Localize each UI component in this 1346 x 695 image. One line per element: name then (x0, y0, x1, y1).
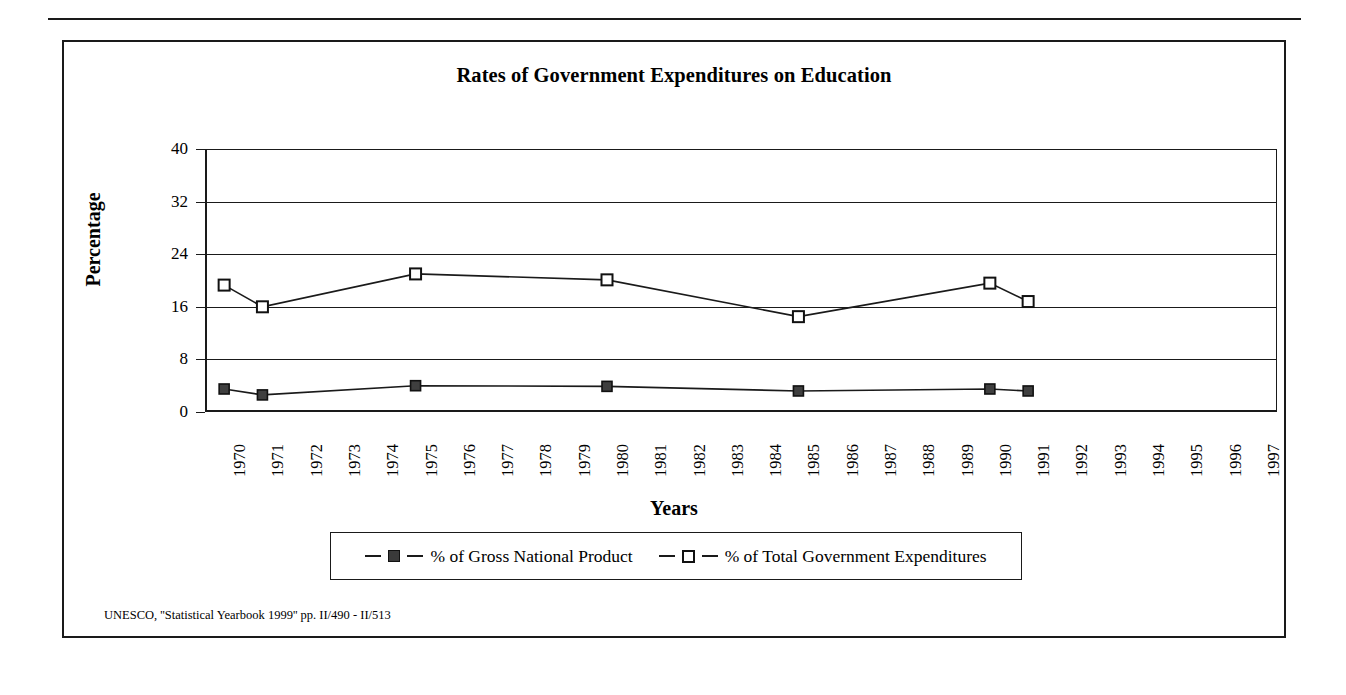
y-tick-label: 16 (171, 297, 188, 317)
x-tick-label: 1980 (613, 444, 633, 477)
filled-square-marker (1023, 386, 1033, 396)
hollow-square-marker (793, 311, 804, 322)
x-tick-label: 1982 (690, 444, 710, 477)
x-tick-label: 1989 (958, 444, 978, 477)
legend-line-right (702, 555, 718, 557)
x-tick-label: 1987 (881, 444, 901, 477)
filled-square-marker (257, 390, 267, 400)
x-tick-label: 1977 (498, 444, 518, 477)
legend-entry-total-gov: % of Total Government Expenditures (659, 546, 987, 567)
y-tick-label: 32 (171, 192, 188, 212)
y-tick-label: 0 (180, 402, 189, 422)
y-axis-title: Percentage (82, 192, 105, 286)
filled-square-icon (388, 550, 400, 562)
x-tick-label: 1993 (1111, 444, 1131, 477)
x-tick-label: 1983 (728, 444, 748, 477)
hollow-square-marker (219, 280, 230, 291)
x-axis-title: Years (64, 497, 1284, 520)
y-tick (196, 254, 205, 255)
chart-title: Rates of Government Expenditures on Educ… (64, 64, 1284, 87)
hollow-square-marker (984, 278, 995, 289)
legend-line-left (659, 555, 675, 557)
legend-line-right (407, 555, 423, 557)
filled-square-marker (985, 384, 995, 394)
filled-square-marker (602, 381, 612, 391)
legend-entry-gnp: % of Gross National Product (365, 546, 632, 567)
page-top-rule (48, 18, 1301, 20)
y-tick (196, 202, 205, 203)
x-axis-tick-labels: 1970197119721973197419751976197719781979… (205, 415, 1277, 487)
y-tick (196, 149, 205, 150)
x-tick-label: 1986 (843, 444, 863, 477)
x-tick-label: 1971 (268, 444, 288, 477)
x-tick-label: 1996 (1226, 444, 1246, 477)
x-tick-label: 1984 (766, 444, 786, 477)
x-tick-label: 1975 (422, 444, 442, 477)
x-tick-label: 1985 (804, 444, 824, 477)
series-line (224, 386, 1028, 395)
x-tick-label: 1988 (919, 444, 939, 477)
hollow-square-icon (682, 550, 695, 563)
y-tick (196, 307, 205, 308)
y-tick-label: 24 (171, 244, 188, 264)
x-tick-label: 1979 (575, 444, 595, 477)
plot-area (205, 149, 1277, 412)
y-tick-label: 40 (171, 139, 188, 159)
chart-legend: % of Gross National Product % of Total G… (330, 532, 1022, 580)
y-tick-label: 8 (180, 349, 189, 369)
hollow-square-marker (410, 268, 421, 279)
filled-square-marker (793, 386, 803, 396)
x-tick-label: 1992 (1072, 444, 1092, 477)
series-line (224, 274, 1028, 317)
filled-square-marker (219, 384, 229, 394)
hollow-square-marker (602, 274, 613, 285)
hollow-square-marker (1023, 296, 1034, 307)
data-series-layer (205, 149, 1277, 412)
x-tick-label: 1978 (536, 444, 556, 477)
y-tick (196, 412, 205, 413)
legend-line-left (365, 555, 381, 557)
x-tick-label: 1997 (1264, 444, 1284, 477)
x-tick-label: 1974 (383, 444, 403, 477)
hollow-square-marker (257, 301, 268, 312)
x-tick-label: 1973 (345, 444, 365, 477)
x-tick-label: 1995 (1187, 444, 1207, 477)
x-tick-label: 1976 (460, 444, 480, 477)
chart-frame: Rates of Government Expenditures on Educ… (62, 40, 1286, 638)
x-tick-label: 1981 (651, 444, 671, 477)
x-tick-label: 1970 (230, 444, 250, 477)
x-tick-label: 1990 (996, 444, 1016, 477)
y-axis-tick-labels: 0816243240 (142, 149, 188, 412)
y-tick (196, 359, 205, 360)
x-tick-label: 1991 (1034, 444, 1054, 477)
x-tick-label: 1994 (1149, 444, 1169, 477)
legend-label-gnp: % of Gross National Product (430, 546, 632, 567)
filled-square-marker (411, 381, 421, 391)
source-note: UNESCO, ''Statistical Yearbook 1999'' pp… (104, 608, 391, 623)
x-tick-label: 1972 (307, 444, 327, 477)
legend-label-total-gov: % of Total Government Expenditures (725, 546, 987, 567)
